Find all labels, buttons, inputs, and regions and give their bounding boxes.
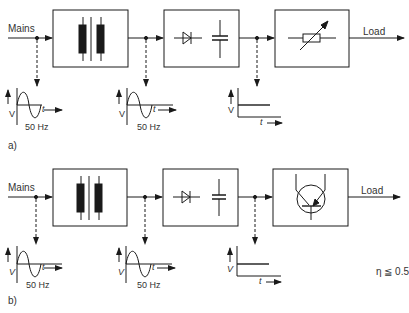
time-axis-label: t (152, 263, 155, 272)
diagram-a (8, 10, 404, 125)
waveform-dc (231, 88, 282, 123)
junction-dot (253, 195, 256, 198)
junction-dot (143, 195, 146, 198)
transistor-icon (296, 174, 325, 220)
time-axis-label: t (42, 263, 45, 272)
variable-resistor-icon (288, 21, 336, 50)
voltage-axis-label: V (9, 268, 15, 277)
junction-dot (144, 36, 147, 39)
mains-label: Mains (8, 183, 35, 193)
transformer-icon (79, 17, 104, 61)
time-axis-label: t (259, 277, 262, 286)
junction-dot (255, 36, 258, 39)
power-supply-diagrams (0, 0, 409, 313)
time-axis-label: t (153, 105, 156, 114)
waveform-sine-1 (8, 88, 62, 125)
voltage-axis-label: V (227, 265, 233, 274)
junction-dot (35, 36, 38, 39)
diagram-b (8, 169, 400, 283)
time-axis-label: t (42, 105, 45, 114)
caption-b: b) (8, 296, 17, 306)
frequency-label: 50 Hz (26, 281, 50, 290)
voltage-axis-label: V (118, 268, 124, 277)
frequency-label: 50 Hz (25, 123, 49, 132)
waveform-sine-2 (119, 246, 175, 283)
voltage-axis-label: V (119, 110, 125, 119)
waveform-dc (230, 246, 281, 282)
voltage-axis-label: V (9, 110, 15, 119)
mains-label: Mains (8, 24, 35, 34)
diode-capacitor-icon (174, 20, 228, 58)
waveform-sine-1 (8, 246, 62, 283)
time-axis-label: t (260, 118, 263, 127)
junction-dot (34, 195, 37, 198)
voltage-axis-label: V (228, 106, 234, 115)
transformer-icon (77, 176, 102, 220)
efficiency-note: η ≦ 0.5 (376, 267, 409, 277)
frequency-label: 50 Hz (137, 123, 161, 132)
waveform-sine-2 (119, 88, 176, 125)
caption-a: a) (8, 141, 17, 151)
diode-capacitor-icon (173, 179, 226, 216)
frequency-label: 50 Hz (137, 281, 161, 290)
load-label: Load (363, 27, 385, 37)
transformer-block (53, 169, 127, 226)
load-label: Load (361, 186, 383, 196)
